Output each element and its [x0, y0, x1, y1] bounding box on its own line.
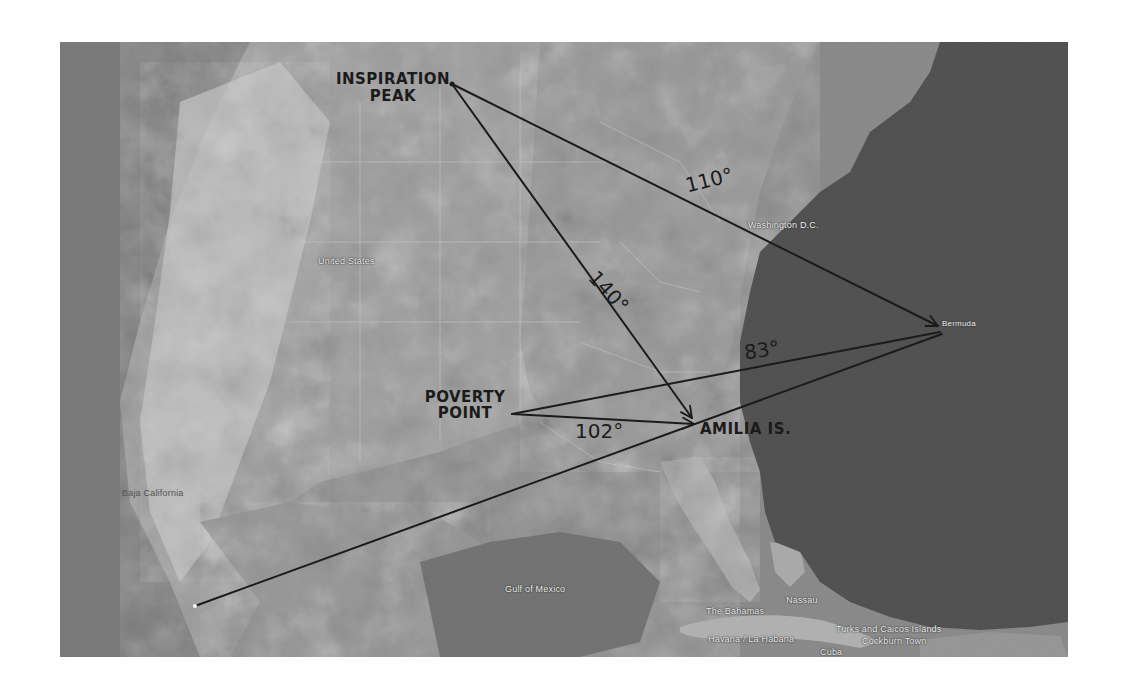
annotation-inspiration-peak-line1: INSPIRATION: [318, 72, 468, 87]
place-label-cockburn-town: Cockburn Town: [862, 636, 926, 646]
annotation-inspiration-peak-line2: PEAK: [318, 89, 468, 104]
place-label-nassau: Nassau: [786, 595, 818, 605]
place-label-havana: Havana / La Habana: [708, 634, 794, 644]
place-label-washington-dc: Washington D.C.: [748, 220, 819, 230]
satellite-map: United States Washington D.C. Bermuda Ba…: [60, 42, 1068, 657]
annotation-poverty-point: POVERTY POINT: [410, 390, 520, 421]
annotation-inspiration-peak: INSPIRATION PEAK: [318, 72, 468, 104]
annotation-poverty-point-line2: POINT: [410, 406, 520, 421]
place-label-bermuda: Bermuda: [942, 319, 976, 328]
place-label-cuba: Cuba: [820, 647, 842, 657]
map-terrain: [60, 42, 1068, 657]
angle-label-102: 102°: [575, 421, 623, 441]
baja-marker: [193, 604, 197, 608]
place-label-turks-and-caicos: Turks and Caicos Islands: [836, 624, 942, 634]
annotation-poverty-point-line1: POVERTY: [410, 390, 520, 405]
place-label-gulf-of-mexico: Gulf of Mexico: [505, 584, 565, 594]
angle-label-83: 83°: [743, 338, 781, 363]
place-label-united-states: United States: [318, 256, 375, 266]
place-label-the-bahamas: The Bahamas: [706, 606, 764, 616]
annotation-amilia-island: AMILIA IS.: [700, 422, 791, 437]
place-label-baja-california: Baja California: [122, 488, 184, 498]
